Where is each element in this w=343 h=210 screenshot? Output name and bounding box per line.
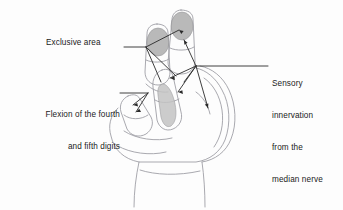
label-flexion-line2: and fifth digits bbox=[12, 142, 120, 153]
label-sensory-line2: innervation bbox=[272, 111, 323, 122]
label-exclusive-area: Exclusive area bbox=[46, 38, 101, 49]
middle-finger-crease bbox=[170, 47, 194, 50]
label-sensory-line1: Sensory bbox=[272, 79, 323, 90]
thumb-outline bbox=[200, 66, 235, 162]
label-flexion: Flexion of the fourth and fifth digits bbox=[12, 89, 120, 174]
label-flexion-line1: Flexion of the fourth bbox=[12, 110, 120, 121]
label-sensory-line3: from the bbox=[272, 143, 323, 154]
ring-finger-strip bbox=[158, 84, 176, 127]
arrowhead-sensory-3 bbox=[205, 103, 209, 108]
label-sensory-innervation: Sensory innervation from the median nerv… bbox=[272, 58, 323, 206]
label-sensory-line4: median nerve bbox=[272, 175, 323, 186]
middle-fingertip-patch bbox=[171, 12, 193, 40]
little-finger-crease bbox=[124, 115, 148, 119]
median-nerve-hand-diagram: Exclusive area Flexion of the fourth and… bbox=[0, 0, 343, 210]
wrist-right-edge bbox=[202, 162, 205, 207]
index-fingertip-patch bbox=[147, 28, 169, 56]
wrist-crease bbox=[140, 170, 200, 174]
index-finger-crease bbox=[146, 59, 169, 62]
wrist-left-edge bbox=[134, 162, 139, 207]
thumb-inner-line bbox=[204, 78, 223, 147]
palm-crease-2 bbox=[118, 146, 166, 154]
thumb-web-crease bbox=[196, 92, 210, 114]
